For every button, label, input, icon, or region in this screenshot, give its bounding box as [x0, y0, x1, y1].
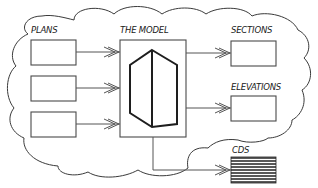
elevations-label: ELEVATIONS	[231, 82, 282, 92]
cds-striped-box	[231, 157, 276, 183]
plans-label: PLANS	[31, 25, 58, 35]
cds-label: CDS	[232, 145, 250, 155]
sections-label: SECTIONS	[231, 25, 273, 35]
plan-box-1	[31, 40, 76, 65]
plan-1-arrow	[76, 47, 120, 57]
model-to-cds-arrow	[153, 137, 231, 175]
model-workflow-diagram: PLANS THE MODEL SECTIONS ELEVATIONS CDS	[0, 0, 318, 188]
model-to-sections-arrow	[186, 48, 231, 58]
model-label: THE MODEL	[120, 25, 169, 35]
plan-box-3	[31, 112, 76, 137]
model-to-elevations-arrow	[186, 103, 231, 113]
plan-box-2	[31, 76, 76, 101]
plan-2-arrow	[76, 83, 120, 93]
sections-box	[231, 41, 276, 66]
plan-3-arrow	[76, 119, 120, 129]
elevations-box	[231, 96, 276, 121]
